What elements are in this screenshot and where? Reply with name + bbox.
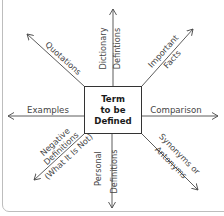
label-definitions-up: Defintions [113,19,122,79]
label-definitions-down: Definitions [110,144,119,200]
label-examples: Examples [23,106,73,115]
center-line-1: Term [101,94,125,105]
label-examples-text: Examples [27,105,69,115]
label-personal: Personal [94,144,103,194]
label-personal-line-1: Personal [93,151,103,186]
center-line-2: to be [101,105,126,116]
label-comparison: Comparison [144,106,208,115]
label-dictionary: Dictionary [99,19,108,79]
arrow-upper-left [27,34,84,86]
label-comparison-text: Comparison [150,105,201,115]
center-line-3: Defined [94,116,131,127]
concept-map-diagram: Term to be Defined Dictionary Defintions… [0,0,224,216]
label-definitions-down-line-2: Definitions [109,150,119,194]
label-dictionary-line-1: Dictionary [98,28,108,70]
label-definitions-up-line-2: Defintions [112,28,122,70]
